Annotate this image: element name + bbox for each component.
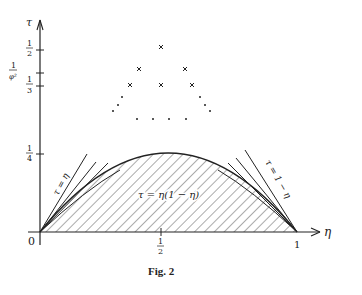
xtick-half: 1 2	[157, 237, 164, 256]
cross-markers	[128, 45, 194, 87]
ytick-phi: 1 φ²	[9, 61, 17, 81]
origin-label: 0	[28, 235, 35, 248]
svg-text:1: 1	[27, 39, 32, 48]
ytick-third: 1 3	[26, 75, 33, 95]
figure: τ η 0 1 2 1 φ² 1 3 1 4 1 2 1 τ = η(1 − η…	[0, 0, 362, 295]
svg-text:2: 2	[158, 247, 163, 256]
left-tangent-label: τ = η	[51, 171, 71, 197]
parabola-label: τ = η(1 − η)	[138, 189, 199, 200]
ytick-half: 1 2	[26, 39, 33, 58]
y-axis	[37, 20, 43, 245]
dot-markers	[112, 96, 211, 120]
x-axis-label: η	[324, 225, 332, 239]
xtick-one: 1	[294, 239, 300, 250]
figure-svg: τ η 0 1 2 1 φ² 1 3 1 4 1 2 1 τ = η(1 − η…	[0, 0, 362, 295]
y-axis-label: τ	[26, 16, 33, 29]
svg-text:1: 1	[27, 144, 32, 153]
svg-text:1: 1	[11, 61, 16, 70]
svg-text:1: 1	[27, 75, 32, 84]
svg-text:3: 3	[27, 86, 32, 95]
svg-text:2: 2	[27, 49, 32, 58]
ytick-quarter: 1 4	[26, 144, 33, 163]
figure-caption: Fig. 2	[148, 265, 175, 277]
svg-text:4: 4	[27, 154, 32, 163]
right-tangent-label: τ = 1 − η	[263, 158, 293, 200]
svg-text:1: 1	[158, 237, 163, 246]
svg-text:φ²: φ²	[9, 73, 17, 81]
